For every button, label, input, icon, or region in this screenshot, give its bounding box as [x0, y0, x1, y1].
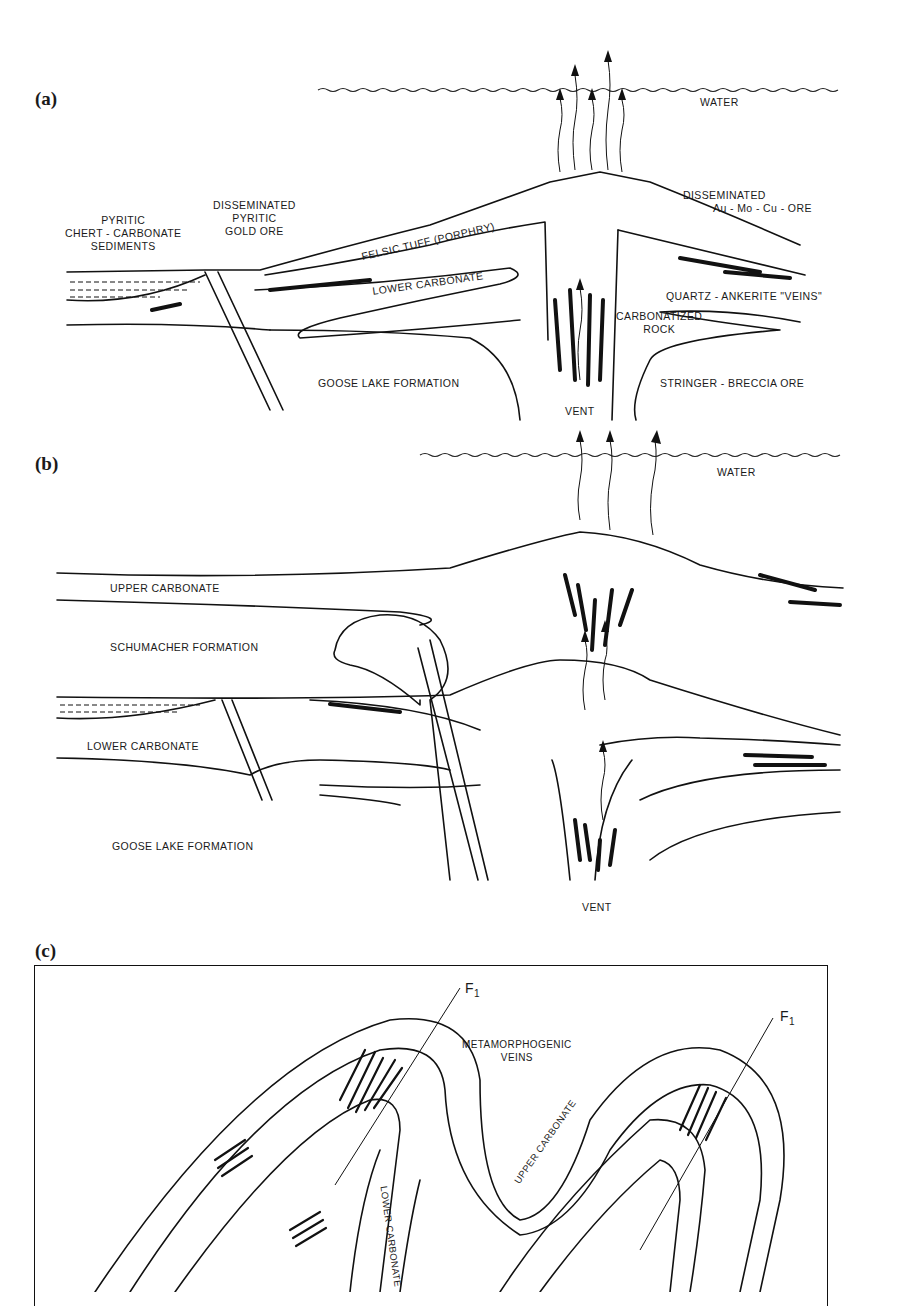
water-surface-a	[318, 89, 838, 92]
disseminated-pyritic-label: DISSEMINATED PYRITIC GOLD ORE	[213, 199, 296, 238]
disseminated-au-label: DISSEMINATED Au - Mo - Cu - ORE	[683, 189, 812, 215]
panel-c-frame	[34, 965, 828, 1306]
upper-carbonate-label-b: UPPER CARBONATE	[110, 582, 220, 595]
water-label-b: WATER	[717, 466, 756, 479]
vent-label-b: VENT	[582, 901, 612, 914]
water-label-a: WATER	[700, 96, 739, 109]
panel-c-label: (c)	[35, 940, 56, 962]
pyritic-sediments-label: PYRITIC CHERT - CARBONATE SEDIMENTS	[65, 214, 181, 253]
vent-label-a: VENT	[565, 405, 595, 418]
goose-lake-label-b: GOOSE LAKE FORMATION	[112, 840, 253, 853]
panel-b-label: (b)	[35, 453, 58, 475]
metamorphogenic-veins-label: METAMORPHOGENIC VEINS	[462, 1038, 572, 1064]
carbonatized-rock-label: CARBONATIZED ROCK	[616, 310, 702, 336]
fold-axis-label-1: F1	[465, 982, 480, 1000]
lower-carbonate-label-b: LOWER CARBONATE	[87, 740, 199, 753]
quartz-ankerite-label: QUARTZ - ANKERITE "VEINS"	[666, 290, 822, 303]
water-surface-b	[420, 454, 840, 457]
goose-lake-label-a: GOOSE LAKE FORMATION	[318, 377, 459, 390]
fold-axis-label-2: F1	[780, 1010, 795, 1028]
stringer-breccia-label: STRINGER - BRECCIA ORE	[660, 377, 804, 390]
schumacher-label: SCHUMACHER FORMATION	[110, 641, 258, 654]
